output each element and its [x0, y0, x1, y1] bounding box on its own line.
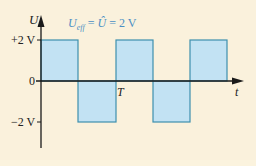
pulse-negative-2 [153, 81, 190, 122]
y-axis-arrow-icon [38, 15, 45, 27]
x-axis-label: t [235, 86, 238, 98]
pulse-positive-1 [41, 40, 78, 81]
formula-eff: eff [77, 23, 85, 32]
y-tick-zero: 0 [29, 75, 35, 87]
y-tick-minus2: −2 V [11, 116, 35, 128]
pulse-positive-3 [190, 40, 227, 81]
period-label: T [117, 86, 124, 98]
formula-eq1: = [85, 16, 98, 30]
formula-annotation: Ueff = Û = 2 V [68, 16, 136, 32]
pulse-negative-1 [78, 81, 116, 122]
y-tick-plus2: +2 V [11, 34, 35, 46]
formula-u: U [68, 16, 77, 30]
formula-uhat: Û [97, 16, 106, 30]
y-axis-label: U [29, 14, 38, 26]
pulse-positive-2 [116, 40, 153, 81]
x-axis-arrow-icon [232, 78, 244, 85]
formula-value: 2 V [119, 16, 136, 30]
formula-eq2: = [106, 16, 119, 30]
